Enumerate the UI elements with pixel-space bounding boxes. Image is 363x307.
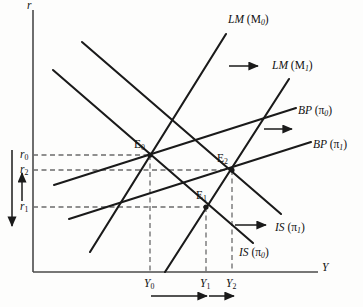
curve-label-IS-pi1: IS (π1) <box>275 222 305 235</box>
equilibrium-dot-E1 <box>203 204 208 209</box>
y-tick-r0: r0 <box>20 149 28 162</box>
equilibrium-dot-E0 <box>147 152 152 157</box>
equilibrium-label-E2: E2 <box>217 153 228 166</box>
y-tick-r2: r2 <box>20 164 28 177</box>
equilibrium-label-E1: E1 <box>196 190 207 203</box>
curve-IS-pi1 <box>82 42 281 214</box>
is-lm-bp-diagram: r Y LM (M0)LM (M1)BP (π0)BP (π1)IS (π1)I… <box>0 0 363 307</box>
diagram-canvas <box>0 0 363 307</box>
curve-label-LM-M1: LM (M1) <box>272 60 313 73</box>
y-axis-label: r <box>27 0 31 12</box>
x-tick-Y2: Y2 <box>226 278 236 291</box>
curve-BP-pi0 <box>54 108 296 185</box>
curve-label-BP-pi0: BP (π0) <box>298 105 332 118</box>
curve-label-IS-pi0: IS (π0) <box>239 247 269 260</box>
equilibrium-label-E0: E0 <box>134 139 145 152</box>
curve-label-BP-pi1: BP (π1) <box>313 139 347 152</box>
x-tick-Y0: Y0 <box>144 278 154 291</box>
equilibrium-dot-E2 <box>229 167 234 172</box>
curve-LM-M1 <box>165 79 289 272</box>
x-tick-Y1: Y1 <box>200 278 210 291</box>
y-tick-r1: r1 <box>20 201 28 214</box>
curve-label-LM-M0: LM (M0) <box>228 14 269 27</box>
x-axis-label: Y <box>322 262 328 274</box>
